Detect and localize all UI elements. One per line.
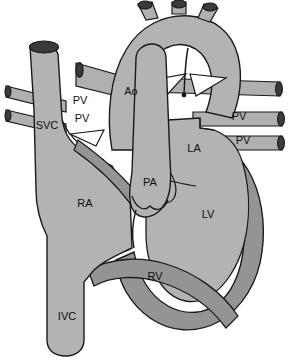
pulmonary-vein-right-lower-lumen	[278, 136, 285, 150]
label-pv-left-upper: PV	[73, 94, 88, 106]
aortic-catheter-tip	[182, 93, 187, 98]
pulmonary-vein-left-upper-lumen	[5, 86, 11, 97]
superior-vena-cava-lumen	[30, 41, 59, 53]
label-pa: PA	[143, 176, 158, 188]
label-pv-left-lower: PV	[75, 112, 90, 124]
brachiocephalic-trunk-lumen	[138, 1, 152, 9]
label-ra: RA	[77, 197, 93, 209]
label-svc: SVC	[36, 119, 59, 131]
rv-outflow-trailing-line	[133, 210, 136, 248]
tricuspid-valve-wedge	[70, 130, 104, 146]
pulmonary-vein-left-lower-lumen	[5, 110, 11, 121]
left-common-carotid-lumen	[172, 0, 186, 8]
pulmonary-artery-trunk	[130, 44, 171, 217]
right-pulmonary-artery-lumen	[76, 63, 83, 78]
label-pv-right-lower: PV	[236, 134, 251, 146]
heart-anatomy-illustration: SVC PV PV Ao PV PV LA PA RA LV RV IVC	[0, 0, 293, 362]
label-lv: LV	[202, 208, 215, 220]
label-ao: Ao	[124, 85, 137, 97]
heart-diagram: SVC PV PV Ao PV PV LA PA RA LV RV IVC	[0, 0, 293, 362]
label-pv-right-upper: PV	[232, 110, 247, 122]
label-la: LA	[187, 142, 201, 154]
label-ivc: IVC	[58, 310, 76, 322]
left-subclavian-lumen	[203, 3, 217, 11]
pulmonary-vein-right-upper-lumen	[278, 112, 285, 126]
right-upper-vessel-posterior-lumen	[276, 82, 283, 96]
label-rv: RV	[147, 270, 163, 282]
